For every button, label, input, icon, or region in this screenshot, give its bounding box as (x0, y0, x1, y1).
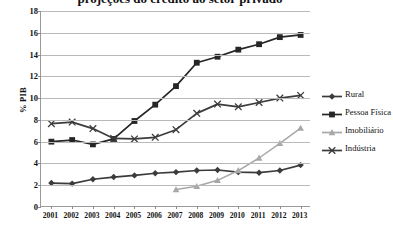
legend-item-rural[interactable]: Rural (322, 88, 393, 99)
x-tick-mark (51, 206, 52, 209)
y-tick-label: 8 (12, 116, 38, 125)
y-tick-label: 6 (12, 138, 38, 147)
plot-area (40, 11, 310, 207)
gridline (41, 163, 310, 164)
x-tick-mark (259, 206, 260, 209)
gridline (41, 142, 310, 143)
data-point-square (152, 102, 158, 108)
data-point-diamond (277, 167, 283, 173)
gridline (41, 55, 310, 56)
data-point-diamond (110, 174, 116, 180)
data-point-diamond (131, 172, 137, 178)
series-imobiliário (173, 125, 304, 193)
legend-label: Indústria (345, 143, 376, 153)
y-tick-label: 2 (12, 181, 38, 190)
series-line (51, 95, 300, 139)
y-tick-mark (38, 142, 41, 143)
data-point-diamond (214, 167, 220, 173)
y-tick-mark (38, 207, 41, 208)
data-point-diamond (152, 170, 158, 176)
y-tick-label: 16 (12, 29, 38, 38)
legend-marker-cross-icon (322, 142, 342, 153)
x-tick-mark (155, 206, 156, 209)
chart-legend: RuralPessoa FísicaImobiliárioIndústria (322, 88, 393, 153)
y-tick-mark (38, 163, 41, 164)
x-axis-tick-labels: 2001200220032004200520062007200820092010… (40, 211, 310, 227)
data-point-square (256, 41, 262, 47)
x-tick-label: 2013 (285, 211, 315, 220)
data-point-diamond (90, 176, 96, 182)
legend-marker-triangle-icon (322, 124, 342, 135)
x-tick-mark (176, 206, 177, 209)
x-tick-mark (72, 206, 73, 209)
x-tick-mark (218, 206, 219, 209)
y-tick-label: 14 (12, 51, 38, 60)
x-tick-mark (197, 206, 198, 209)
data-point-square (235, 47, 241, 53)
y-tick-mark (38, 33, 41, 34)
x-tick-mark (301, 206, 302, 209)
series-rural (48, 162, 304, 187)
y-tick-mark (38, 11, 41, 12)
y-tick-mark (38, 120, 41, 121)
x-tick-mark (114, 206, 115, 209)
data-point-diamond (194, 167, 200, 173)
data-point-square (277, 34, 283, 40)
gridline (41, 120, 310, 121)
x-tick-mark (238, 206, 239, 209)
gridline (41, 11, 310, 12)
y-tick-label: 18 (12, 7, 38, 16)
y-tick-label: 12 (12, 72, 38, 81)
legend-marker-diamond-icon (322, 88, 342, 99)
x-tick-mark (134, 206, 135, 209)
y-tick-mark (38, 76, 41, 77)
series-indústria (48, 92, 304, 142)
data-point-triangle (235, 167, 242, 173)
y-tick-label: 4 (12, 159, 38, 168)
gridline (41, 185, 310, 186)
series-layer (41, 11, 311, 207)
gridline (41, 33, 310, 34)
legend-label: Imobiliário (345, 125, 384, 135)
data-point-square (194, 60, 200, 66)
legend-label: Rural (345, 89, 364, 99)
series-line (176, 128, 301, 190)
y-axis-tick-labels: 181614121086420 (8, 0, 38, 236)
chart-title: projeções do crédito ao setor privado (40, 0, 320, 7)
data-point-square (329, 112, 335, 118)
gridline (41, 76, 310, 77)
chart-container: projeções do crédito ao setor privado % … (0, 0, 393, 236)
legend-item-indústria[interactable]: Indústria (322, 142, 393, 153)
legend-marker-square-icon (322, 106, 342, 117)
legend-item-pessoa-física[interactable]: Pessoa Física (322, 106, 393, 117)
data-point-diamond (329, 93, 335, 99)
legend-item-imobiliário[interactable]: Imobiliário (322, 124, 393, 135)
y-tick-label: 10 (12, 94, 38, 103)
data-point-diamond (173, 169, 179, 175)
data-point-diamond (256, 170, 262, 176)
data-point-square (173, 83, 179, 89)
x-tick-mark (93, 206, 94, 209)
y-tick-mark (38, 98, 41, 99)
x-tick-mark (280, 206, 281, 209)
data-point-cross (193, 110, 200, 117)
y-tick-label: 0 (12, 203, 38, 212)
gridline (41, 98, 310, 99)
y-tick-mark (38, 185, 41, 186)
data-point-triangle (297, 125, 304, 131)
legend-label: Pessoa Física (345, 107, 391, 117)
y-tick-mark (38, 55, 41, 56)
